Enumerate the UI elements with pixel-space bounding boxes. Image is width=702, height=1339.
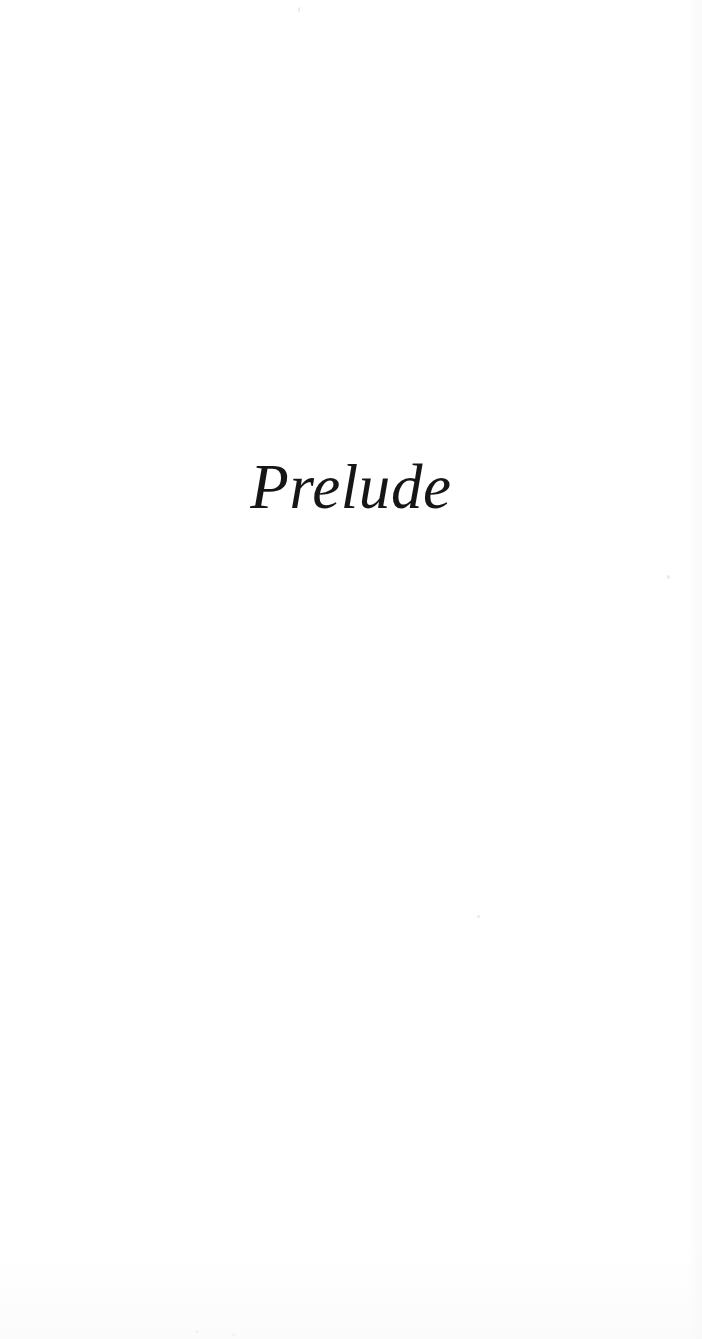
book-page: Prelude: [0, 0, 702, 1339]
page-title: Prelude: [250, 456, 451, 519]
section-title-block: Prelude: [0, 0, 702, 1339]
